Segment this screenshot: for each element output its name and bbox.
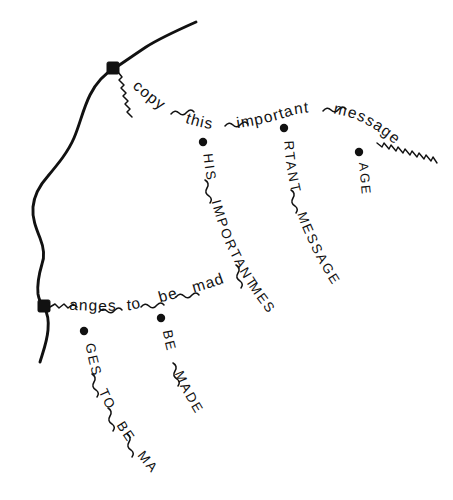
label-message: message — [332, 100, 404, 148]
label-his: HIS — [200, 153, 219, 183]
uppercase-text-group: HIS IMPORTANT MESSAGE RTANT MES — [0, 0, 374, 476]
dot-node-his[interactable] — [199, 138, 207, 146]
node-square-upper[interactable] — [107, 62, 119, 74]
label-made-upper-1: MADE — [0, 0, 162, 476]
dot-node-ges[interactable] — [80, 327, 88, 335]
label-this: this — [184, 109, 215, 132]
dot-node-age[interactable] — [355, 148, 363, 156]
diagram-svg: copy this important message ang — [0, 0, 453, 500]
label-anges: anges — [69, 296, 117, 314]
label-to-upper: TO — [96, 386, 119, 413]
label-be-upper-1: BE — [114, 419, 139, 446]
label-important: important — [235, 98, 310, 131]
label-age: AGE — [356, 162, 374, 197]
label-copy: copy — [130, 77, 169, 113]
square-node-group — [38, 62, 119, 312]
label-to: to — [126, 294, 142, 314]
label-rtant: RTANT — [281, 140, 304, 195]
label-message-upper-2: MESSAGE — [294, 210, 343, 288]
figure-canvas: copy this important message ang — [0, 0, 453, 500]
dot-node-bemade[interactable] — [157, 314, 165, 322]
label-made-upper-2: MADE — [172, 369, 207, 417]
label-made: made — [0, 0, 226, 296]
label-ges: GES — [82, 342, 104, 379]
label-be-upper-2: BE — [160, 329, 180, 354]
dot-node-rtant[interactable] — [280, 124, 288, 132]
label-be: be — [156, 284, 179, 306]
node-square-lower[interactable] — [38, 300, 50, 312]
